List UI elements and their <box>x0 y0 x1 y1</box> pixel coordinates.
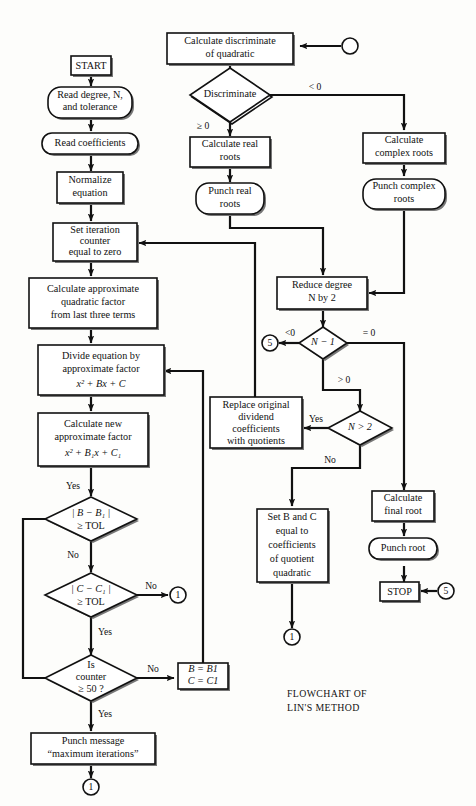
node-set-iteration-line3: equal to zero <box>69 246 122 257</box>
decision-counter-line2: counter <box>76 671 107 682</box>
node-calc-discriminate-line2: of quadratic <box>206 48 255 59</box>
node-replace-line2: dividend <box>238 411 274 422</box>
connector-five-b: 5 <box>438 583 454 599</box>
connector-one-a-label: 1 <box>176 589 181 600</box>
node-punch-message-line2: “maximum iterations” <box>48 748 139 759</box>
node-set-iteration-counter: Set iteration counter equal to zero <box>53 223 139 263</box>
node-punch-real-line1: Punch real <box>208 185 251 196</box>
decision-n-minus-1-branch-lt0: <0 <box>285 327 295 338</box>
decision-n-minus-1: N − 1 <0 = 0 > 0 <box>285 327 376 385</box>
node-set-b-and-c-line5: quadratic <box>273 567 311 578</box>
decision-b-tol-branch-no: No <box>67 549 79 560</box>
node-calc-final-root: Calculate final root <box>372 491 436 523</box>
node-stop: STOP <box>380 582 421 603</box>
decision-counter-50: Is counter ≥ 50 ? No Yes <box>45 655 159 719</box>
node-divide-line2: approximate factor <box>62 363 140 374</box>
node-set-b-and-c-line4: of quotient <box>270 553 315 564</box>
node-calc-discriminate-line1: Calculate discriminate <box>184 35 276 46</box>
connector-entry-blank <box>342 38 358 54</box>
node-reduce-degree-line2: N by 2 <box>308 292 336 303</box>
decision-counter-line1: Is <box>87 659 94 670</box>
node-calc-discriminate: Calculate discriminate of quadratic <box>167 33 295 66</box>
decision-counter-branch-no: No <box>147 663 159 674</box>
node-set-iteration-line2: counter <box>80 235 111 246</box>
node-start: START <box>71 56 113 77</box>
decision-n-gt-2-branch-no: No <box>324 454 336 465</box>
node-set-b-and-c-line1: Set B and C <box>268 511 317 522</box>
node-replace-line1: Replace original <box>222 399 289 410</box>
node-start-label: START <box>76 60 108 71</box>
decision-c-tol-branch-no: No <box>145 580 157 591</box>
connector-one-b-label: 1 <box>89 781 94 792</box>
node-set-bc-line2: C = C1 <box>188 675 219 686</box>
node-set-bc-line1: B = B1 <box>188 663 218 674</box>
node-reduce-degree-line1: Reduce degree <box>292 279 353 290</box>
node-calc-final-line2: final root <box>384 505 422 516</box>
node-calc-approx-line3: from last three terms <box>51 309 136 320</box>
node-punch-root-label: Punch root <box>381 542 426 553</box>
decision-discriminate-label: Discriminate <box>204 88 257 99</box>
decision-c-tol: | C − C₁ | ≥ TOL No Yes <box>45 573 157 637</box>
decision-n-gt-2-label: N > 2 <box>347 421 372 432</box>
node-calc-complex-line2: complex roots <box>375 147 433 158</box>
decision-discriminate-branch-ge0: ≥ 0 <box>197 120 210 131</box>
node-divide-equation: Divide equation by approximate factor x²… <box>38 345 166 397</box>
node-calc-new-line3: x² + B₁x + C₁ <box>64 447 121 458</box>
node-read-degree-line2: and tolerance <box>63 101 118 112</box>
node-stop-label: STOP <box>387 586 412 597</box>
node-read-degree: Read degree, N, and tolerance <box>48 87 134 120</box>
node-normalize-line2: equation <box>72 187 107 198</box>
node-replace-line4: with quotients <box>227 435 285 446</box>
caption-line-1: FLOWCHART OF <box>287 688 367 699</box>
node-calc-real-line2: roots <box>220 151 240 162</box>
node-punch-real-line2: roots <box>220 198 240 209</box>
connector-one-a: 1 <box>170 587 186 603</box>
node-calc-approx-line1: Calculate approximate <box>47 283 139 294</box>
node-punch-root: Punch root <box>369 538 439 561</box>
decision-c-tol-branch-yes: Yes <box>98 626 112 637</box>
decision-n-minus-1-branch-gt0: > 0 <box>338 374 351 385</box>
node-reduce-degree: Reduce degree N by 2 <box>277 277 369 311</box>
caption-line-2: LIN'S METHOD <box>287 702 360 713</box>
node-punch-complex-roots: Punch complex roots <box>363 179 447 211</box>
decision-c-tol-line2: ≥ TOL <box>77 596 105 607</box>
connector-one-c-label: 1 <box>290 631 295 642</box>
node-calc-new-line1: Calculate new <box>64 418 123 429</box>
node-read-degree-line1: Read degree, N, <box>57 89 123 100</box>
decision-b-tol-branch-yes: Yes <box>66 480 80 491</box>
node-calc-approx-factor: Calculate approximate quadratic factor f… <box>29 278 159 330</box>
node-set-bc-box: B = B1 C = C1 <box>178 663 230 691</box>
decision-discriminate-branch-lt0: < 0 <box>309 81 322 92</box>
decision-b-tol-line2: ≥ TOL <box>77 520 105 531</box>
decision-n-minus-1-branch-eq0: = 0 <box>363 327 376 338</box>
node-calc-new-line2: approximate factor <box>54 431 132 442</box>
decision-n-gt-2-branch-yes: Yes <box>309 413 323 424</box>
node-punch-message: Punch message “maximum iterations” <box>31 733 157 766</box>
decision-n-gt-2: N > 2 Yes No <box>309 411 394 465</box>
node-calc-new-factor: Calculate new approximate factor x² + B₁… <box>38 413 150 468</box>
node-set-iteration-line1: Set iteration <box>70 224 120 235</box>
decision-counter-line3: ≥ 50 ? <box>78 683 104 694</box>
figure-caption: FLOWCHART OF LIN'S METHOD <box>287 688 367 713</box>
flowchart-svg: START Read degree, N, and tolerance Read… <box>0 0 476 806</box>
decision-n-minus-1-label: N − 1 <box>310 336 335 347</box>
edge-set-bc-to-divide <box>164 371 203 663</box>
decision-c-tol-line1: | C − C₁ | <box>71 583 111 594</box>
node-punch-message-line1: Punch message <box>62 735 125 746</box>
node-read-coefficients-label: Read coefficients <box>55 137 126 148</box>
node-normalize-line1: Normalize <box>69 174 112 185</box>
node-punch-real-roots: Punch real roots <box>196 183 266 216</box>
node-set-b-and-c-line3: coefficients <box>268 539 315 550</box>
node-set-b-and-c-line2: equal to <box>276 525 309 536</box>
decision-discriminate: Discriminate ≥ 0 < 0 <box>190 68 322 131</box>
node-punch-complex-line2: roots <box>394 193 414 204</box>
edge-punch-real-to-reduce-degree <box>230 214 323 275</box>
node-calc-final-line1: Calculate <box>384 492 423 503</box>
edge-discriminate-lt0-to-calc-complex <box>268 95 404 130</box>
node-normalize: Normalize equation <box>57 172 125 205</box>
decision-b-tol-line1: | B − B₁ | <box>72 507 111 518</box>
node-calc-real-line1: Calculate real <box>202 138 258 149</box>
node-divide-line1: Divide equation by <box>62 350 141 361</box>
node-calc-real-roots: Calculate real roots <box>190 137 272 169</box>
connector-five-a: 5 <box>262 335 278 351</box>
